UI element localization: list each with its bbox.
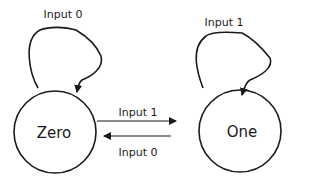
state-zero-label: Zero — [37, 126, 72, 141]
self-loop-one-arrow — [196, 32, 271, 95]
self-loop-zero-label: Input 0 — [44, 9, 83, 20]
state-one-label: One — [227, 125, 258, 140]
transition-one-to-zero-label: Input 0 — [119, 147, 158, 158]
self-loop-one-label: Input 1 — [205, 17, 244, 28]
self-loop-zero-arrow — [29, 27, 101, 92]
transition-zero-to-one-label: Input 1 — [119, 107, 158, 118]
